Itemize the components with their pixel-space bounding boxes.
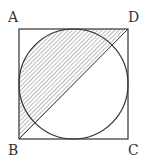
label-c: C: [128, 142, 139, 158]
label-b: B: [8, 142, 18, 158]
label-a: A: [7, 9, 19, 25]
label-d: D: [128, 9, 139, 25]
geometry-diagram: A D B C: [0, 0, 146, 162]
